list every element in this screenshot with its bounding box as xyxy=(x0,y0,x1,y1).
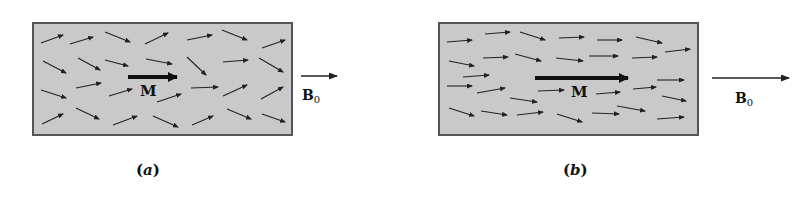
magnetization-label: M xyxy=(571,83,588,101)
panel-b-aligned-dipoles: MB0 xyxy=(439,23,789,135)
field-label: B0 xyxy=(735,90,753,108)
caption-a: (a) xyxy=(136,161,160,179)
field-label: B0 xyxy=(302,87,320,105)
magnetization-label: M xyxy=(140,82,157,100)
caption-b: (b) xyxy=(563,161,588,179)
panel-a-random-dipoles: MB0 xyxy=(33,23,337,135)
magnetization-diagram: MB0 MB0 xyxy=(0,0,804,198)
